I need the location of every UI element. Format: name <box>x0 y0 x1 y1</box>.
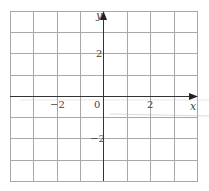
coordinate-plane: y x −2 0 2 2 −2 <box>0 0 209 191</box>
coordinate-grid: y x −2 0 2 2 −2 <box>0 0 209 191</box>
y-tick-label-neg2: −2 <box>90 133 105 144</box>
x-tick-label-neg2: −2 <box>50 99 65 110</box>
x-axis-label: x <box>190 100 197 113</box>
scan-artifact <box>110 114 209 116</box>
origin-label: 0 <box>94 99 100 110</box>
x-tick-label-2: 2 <box>147 99 153 110</box>
y-tick-label-2: 2 <box>96 48 102 59</box>
x-axis-arrow-icon <box>189 93 198 100</box>
y-axis-label: y <box>95 9 103 22</box>
